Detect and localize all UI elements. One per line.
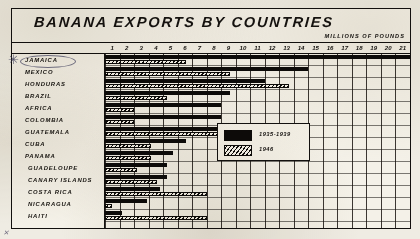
row-separator-costa-rica [105, 197, 410, 198]
x-tick-label-9: 9 [221, 44, 235, 51]
country-label-brazil: BRAZIL [25, 93, 52, 99]
bar-canary-islands-1935-1939 [105, 175, 167, 179]
jamaica-highlight-ring [20, 55, 76, 68]
bar-nicaragua-1946 [105, 204, 112, 209]
bar-panama-1946 [105, 156, 151, 161]
bar-haiti-1946 [105, 216, 207, 221]
legend-swatch-1946 [224, 145, 252, 156]
country-label-canary-islands: CANARY ISLANDS [28, 177, 92, 183]
bar-costa-rica-1935-1939 [105, 187, 160, 191]
chart-legend: 1935-1939 1946 [217, 123, 310, 161]
arrow-pointer-icon: ✳ [8, 52, 19, 67]
legend-label-1946: 1946 [259, 146, 274, 152]
bar-brazil-1946 [105, 96, 167, 101]
bar-brazil-1935-1939 [105, 91, 230, 95]
x-axis-unit-label: MILLIONS OF POUNDS [325, 33, 405, 39]
legend-swatch-1935-1939 [224, 130, 252, 141]
bar-panama-1935-1939 [105, 151, 173, 155]
x-tick-label-19: 19 [367, 44, 381, 51]
bar-cuba-1946 [105, 144, 151, 149]
x-tick-label-15: 15 [309, 44, 323, 51]
gridline-20 [395, 54, 396, 228]
country-label-honduras: HONDURAS [25, 81, 66, 87]
x-tick-label-14: 14 [294, 44, 308, 51]
x-tick-label-13: 13 [280, 44, 294, 51]
country-label-guatemala: GUATEMALA [25, 129, 70, 135]
country-label-costa-rica: COSTA RICA [28, 189, 73, 195]
x-tick-label-16: 16 [323, 44, 337, 51]
legend-label-1935-1939: 1935-1939 [259, 131, 291, 137]
x-tick-label-10: 10 [236, 44, 250, 51]
x-tick-label-21: 21 [396, 44, 410, 51]
gridline-19 [381, 54, 382, 228]
x-tick-label-18: 18 [352, 44, 366, 51]
x-tick-label-11: 11 [251, 44, 265, 51]
bar-africa-1935-1939 [105, 103, 221, 107]
bar-jamaica-1935-1939 [105, 55, 410, 59]
bar-costa-rica-1946 [105, 192, 207, 197]
country-label-colombia: COLOMBIA [25, 117, 64, 123]
country-label-column: JAMAICAMEXICOHONDURASBRAZILAFRICACOLOMBI… [12, 54, 105, 228]
corner-mark-icon: ✕ [3, 229, 9, 237]
x-tick-label-4: 4 [149, 44, 163, 51]
chart-title: BANANA EXPORTS BY COUNTRIES [33, 14, 334, 30]
bar-colombia-1935-1939 [105, 115, 221, 119]
bar-guadeloupe-1946 [105, 168, 137, 173]
chart-frame: BANANA EXPORTS BY COUNTRIES MILLIONS OF … [11, 8, 411, 229]
bar-honduras-1935-1939 [105, 79, 265, 83]
gridline-16 [337, 54, 338, 228]
gridline-17 [352, 54, 353, 228]
x-tick-label-3: 3 [134, 44, 148, 51]
bar-mexico-1946 [105, 72, 230, 77]
bar-jamaica-1946 [105, 60, 186, 65]
country-label-cuba: CUBA [25, 141, 45, 147]
x-tick-label-5: 5 [163, 44, 177, 51]
x-tick-label-7: 7 [192, 44, 206, 51]
bar-africa-1946 [105, 108, 134, 113]
gridline-15 [323, 54, 324, 228]
x-tick-label-12: 12 [265, 44, 279, 51]
bar-guadeloupe-1935-1939 [105, 163, 167, 167]
x-tick-label-2: 2 [120, 44, 134, 51]
country-label-mexico: MEXICO [25, 69, 53, 75]
x-tick-label-20: 20 [381, 44, 395, 51]
bar-haiti-1935-1939 [105, 211, 122, 215]
x-tick-label-1: 1 [105, 44, 119, 51]
bar-canary-islands-1946 [105, 180, 157, 185]
country-label-guadeloupe: GUADELOUPE [28, 165, 78, 171]
bar-colombia-1946 [105, 120, 134, 125]
bar-mexico-1935-1939 [105, 67, 308, 71]
bar-nicaragua-1935-1939 [105, 199, 147, 203]
chart-page: BANANA EXPORTS BY COUNTRIES MILLIONS OF … [0, 0, 420, 239]
row-separator-nicaragua [105, 209, 410, 210]
country-label-panama: PANAMA [25, 153, 56, 159]
title-band: BANANA EXPORTS BY COUNTRIES MILLIONS OF … [12, 9, 410, 43]
gridline-18 [366, 54, 367, 228]
x-tick-label-6: 6 [178, 44, 192, 51]
bar-cuba-1935-1939 [105, 139, 186, 143]
country-label-haiti: HAITI [28, 213, 48, 219]
x-tick-label-17: 17 [338, 44, 352, 51]
row-separator-haiti [105, 221, 410, 222]
x-axis-tick-row: 123456789101112131415161718192021 [12, 43, 410, 54]
bar-honduras-1946 [105, 84, 289, 89]
bar-guatemala-1935-1939 [105, 127, 221, 131]
country-label-nicaragua: NICARAGUA [28, 201, 72, 207]
country-label-africa: AFRICA [25, 105, 52, 111]
x-tick-label-8: 8 [207, 44, 221, 51]
